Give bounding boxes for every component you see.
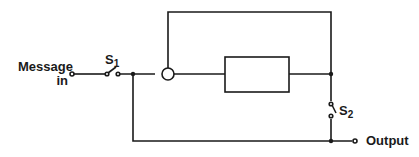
- label-in: in: [18, 74, 68, 88]
- summing-node: [162, 68, 174, 80]
- switch-s2-label: S2: [339, 104, 353, 119]
- s2-letter: S: [339, 103, 348, 118]
- switch-s1-contact-b: [116, 72, 120, 76]
- junction-right: [329, 72, 333, 76]
- label-message: Message: [18, 60, 68, 74]
- output-terminal: [353, 139, 357, 143]
- s1-subscript: 1: [114, 58, 120, 69]
- switch-s2-contact-b: [329, 114, 333, 118]
- process-box: [225, 57, 289, 92]
- message-in-label: Message in: [18, 60, 68, 88]
- junction-left: [131, 72, 135, 76]
- s2-subscript: 2: [348, 109, 354, 120]
- output-label: Output: [366, 134, 409, 148]
- wire-bypass-bottom: [133, 74, 352, 141]
- junction-bottom-right: [329, 139, 333, 143]
- switch-s1-label: S1: [105, 53, 119, 68]
- wire-feedback-top: [168, 12, 331, 141]
- s1-letter: S: [105, 52, 114, 67]
